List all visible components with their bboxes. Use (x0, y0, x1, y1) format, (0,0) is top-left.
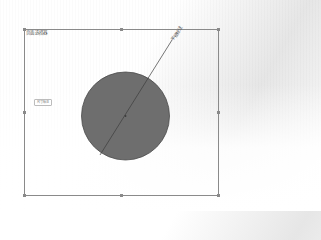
diagram-canvas (0, 0, 321, 211)
center-point (125, 115, 127, 117)
